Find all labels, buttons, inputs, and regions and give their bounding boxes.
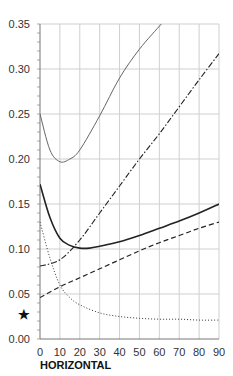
y-tick-label: 0.15 — [9, 198, 30, 210]
star-marker: ★ — [18, 307, 30, 322]
series-line-dash-dot — [40, 54, 219, 266]
x-tick-label: 40 — [113, 346, 125, 358]
line-chart: 01020304050607080900.000.050.100.150.200… — [0, 0, 233, 376]
y-tick-label: 0.00 — [9, 333, 30, 345]
x-tick-label: 90 — [213, 346, 225, 358]
x-tick-label: 30 — [94, 346, 106, 358]
x-tick-label: 60 — [153, 346, 165, 358]
y-tick-label: 0.25 — [9, 108, 30, 120]
y-tick-label: 0.05 — [9, 288, 30, 300]
x-tick-label: 50 — [133, 346, 145, 358]
y-tick-label: 0.20 — [9, 153, 30, 165]
series-line-thin-solid — [40, 24, 161, 162]
series-line-dotted — [40, 222, 219, 320]
grid-lines — [40, 24, 219, 339]
y-tick-label: 0.30 — [9, 63, 30, 75]
y-tick-label: 0.10 — [9, 243, 30, 255]
x-tick-label: 10 — [54, 346, 66, 358]
series-line-dashed — [40, 222, 219, 298]
y-tick-label: 0.35 — [9, 18, 30, 30]
axes — [37, 24, 219, 339]
x-tick-label: 0 — [37, 346, 43, 358]
x-tick-label: 70 — [173, 346, 185, 358]
x-axis-label: HORIZONTAL — [40, 359, 112, 371]
x-tick-label: 80 — [193, 346, 205, 358]
x-tick-label: 20 — [74, 346, 86, 358]
data-series — [40, 24, 219, 320]
series-line-thick-solid — [40, 184, 219, 248]
